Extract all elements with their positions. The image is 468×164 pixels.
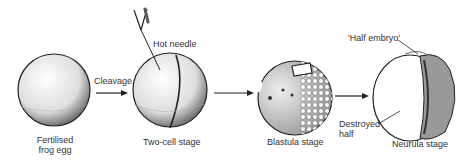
cleavage-arrow: [96, 90, 128, 96]
fertilised-egg: [18, 54, 90, 126]
neurula-embryo: [373, 51, 455, 141]
two-cell-embryo: [133, 53, 207, 128]
egg-label-line1: Fertilised: [30, 135, 80, 145]
half-embryo-pointer: [398, 40, 418, 54]
two-cell-label: Two-cell stage: [143, 137, 201, 147]
arrow-to-neurula: [335, 93, 369, 99]
blastula-embryo: [258, 60, 340, 136]
destroyed-label-line1: Destroyed: [339, 119, 380, 129]
egg-label: Fertilised frog egg: [30, 135, 80, 155]
blastula-label: Blastula stage: [267, 137, 324, 147]
destroyed-label-line2: half: [339, 129, 380, 139]
cleavage-label: Cleavage: [94, 76, 132, 86]
neurula-label: Neurula stage: [392, 139, 448, 149]
destroyed-half-label: Destroyed half: [339, 119, 380, 139]
egg-label-line2: frog egg: [30, 145, 80, 155]
arrow-to-blastula: [214, 90, 254, 96]
hot-needle-label: Hot needle: [153, 39, 197, 49]
half-embryo-label: 'Half embryo': [348, 33, 400, 43]
